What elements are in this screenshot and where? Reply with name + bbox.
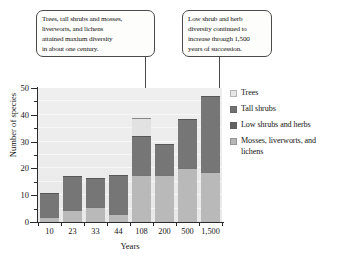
- bar-segment[interactable]: [132, 136, 150, 175]
- bar-group[interactable]: [155, 88, 173, 222]
- bar-segment[interactable]: [132, 118, 150, 137]
- x-axis-tick: [107, 222, 108, 226]
- callout-line-text: diversity continued to: [188, 24, 267, 34]
- y-axis-title: Number of species: [8, 80, 18, 170]
- bar-segment[interactable]: [201, 96, 219, 172]
- legend-swatch-icon: [230, 138, 237, 145]
- bar-group[interactable]: [86, 88, 104, 222]
- y-axis-tick-label: 10: [13, 190, 29, 200]
- legend-item[interactable]: Tall shrubs: [230, 104, 335, 115]
- callout-line-text: Low shrub and herb: [188, 14, 267, 24]
- x-axis-title: Years: [38, 241, 222, 251]
- legend-swatch-icon: [230, 106, 237, 113]
- y-axis-minor-tick: [34, 182, 38, 183]
- x-axis-tick: [199, 222, 200, 226]
- x-axis-tick: [61, 222, 62, 226]
- bar-group[interactable]: [201, 88, 219, 222]
- bar-segment[interactable]: [155, 175, 173, 222]
- y-axis-tick: [31, 195, 38, 196]
- x-axis-tick-label: 23: [61, 227, 84, 236]
- bar-segment[interactable]: [63, 210, 81, 222]
- x-axis-tick: [38, 222, 39, 226]
- y-axis-tick: [31, 88, 38, 89]
- x-axis-tick-label: 1,500: [199, 227, 222, 236]
- y-axis-tick: [31, 142, 38, 143]
- x-axis-tick-label: 44: [107, 227, 130, 236]
- bar-group[interactable]: [132, 88, 150, 222]
- callout-line-text: in about one century.: [42, 44, 150, 54]
- legend-label: Trees: [241, 88, 258, 99]
- x-axis-tick-label: 500: [176, 227, 199, 236]
- x-axis-tick: [130, 222, 131, 226]
- bar-group[interactable]: [109, 88, 127, 222]
- y-axis-tick: [31, 168, 38, 169]
- plot-area-wrapper: [38, 88, 222, 222]
- x-axis-tick-label: 108: [130, 227, 153, 236]
- bar-segment[interactable]: [201, 172, 219, 222]
- y-axis-minor-tick: [34, 128, 38, 129]
- bar-segment[interactable]: [155, 144, 173, 175]
- y-axis-tick: [31, 115, 38, 116]
- legend-label: Mosses, liverworts, and lichens: [241, 136, 335, 157]
- callout-line-text: attained maxium diversity: [42, 34, 150, 44]
- legend-swatch-icon: [230, 122, 237, 129]
- legend-swatch-icon: [230, 90, 237, 97]
- legend-label: Low shrubs and herbs: [241, 120, 311, 131]
- x-axis-tick: [153, 222, 154, 226]
- bar-segment[interactable]: [178, 168, 196, 222]
- bar-segment[interactable]: [178, 119, 196, 169]
- bar-group[interactable]: [63, 88, 81, 222]
- callout-box-low-shrub-diversity: Low shrub and herb diversity continued t…: [182, 10, 272, 57]
- figure-container: Trees, tall shrubs and mosses, liverwort…: [0, 0, 337, 272]
- bar-group[interactable]: [40, 88, 58, 222]
- x-axis-tick-label: 10: [38, 227, 61, 236]
- x-axis-tick: [84, 222, 85, 226]
- callout-line-text: liverworts, and lichens: [42, 24, 150, 34]
- y-axis-minor-tick: [34, 155, 38, 156]
- legend-item[interactable]: Mosses, liverworts, and lichens: [230, 136, 335, 157]
- bar-segment[interactable]: [86, 207, 104, 222]
- bar-group[interactable]: [178, 88, 196, 222]
- x-axis-tick: [176, 222, 177, 226]
- y-axis-tick-label: 0: [13, 217, 29, 227]
- y-axis-minor-tick: [34, 101, 38, 102]
- bar-segment[interactable]: [40, 193, 58, 217]
- bar-segment[interactable]: [86, 178, 104, 207]
- bar-segment[interactable]: [109, 175, 127, 214]
- legend-label: Tall shrubs: [241, 104, 276, 115]
- bar-segment[interactable]: [63, 176, 81, 210]
- callout-box-trees-diversity: Trees, tall shrubs and mosses, liverwort…: [36, 10, 155, 57]
- x-axis-tick-label: 33: [84, 227, 107, 236]
- callout-line-text: increase through 1,500: [188, 34, 267, 44]
- x-axis-tick: [222, 222, 223, 226]
- bar-segment[interactable]: [132, 175, 150, 222]
- x-axis-tick-label: 200: [153, 227, 176, 236]
- x-axis-line: [30, 222, 224, 223]
- bar-segment[interactable]: [109, 214, 127, 222]
- legend-item[interactable]: Trees: [230, 88, 335, 99]
- plot-area: [38, 88, 222, 222]
- callout-line-text: years of succession.: [188, 44, 267, 54]
- legend-item[interactable]: Low shrubs and herbs: [230, 120, 335, 131]
- y-axis-tick: [31, 222, 38, 223]
- y-axis-minor-tick: [34, 209, 38, 210]
- callout-line-text: Trees, tall shrubs and mosses,: [42, 14, 150, 24]
- chart-legend: TreesTall shrubsLow shrubs and herbsMoss…: [230, 88, 335, 163]
